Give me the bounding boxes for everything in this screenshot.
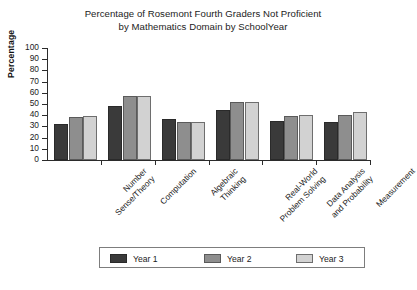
legend-entry[interactable]: Year 1 <box>110 252 158 265</box>
y-axis-line <box>47 48 48 160</box>
bar <box>216 110 230 160</box>
y-axis-tick-label: 80 <box>30 64 39 75</box>
y-axis-tick-label: 20 <box>30 132 39 143</box>
x-axis-category-label: Measurement <box>374 166 417 209</box>
y-axis-tick: 0 <box>42 160 47 161</box>
bar <box>123 96 137 160</box>
bar <box>54 124 68 160</box>
bar <box>245 102 259 160</box>
y-axis-title: Percentage <box>6 30 16 78</box>
y-axis-tick-label: 70 <box>30 76 39 87</box>
category-label-line: Measurement <box>374 166 417 209</box>
y-axis-tick: 10 <box>42 149 47 150</box>
y-axis-tick: 30 <box>42 126 47 127</box>
x-axis-category-label: Data Analysisand Probability <box>321 166 375 220</box>
legend-label: Year 3 <box>319 254 344 264</box>
bar <box>177 122 191 160</box>
y-axis-tick-label: 40 <box>30 109 39 120</box>
bar <box>108 106 122 160</box>
bar-group <box>162 48 205 160</box>
x-axis-category-label: Real-WorldProblem Solving <box>269 166 327 224</box>
bar <box>284 116 298 160</box>
y-axis-tick: 50 <box>42 104 47 105</box>
category-label-line: Computation <box>158 166 198 206</box>
x-axis-tick <box>155 160 156 165</box>
bar-group <box>54 48 97 160</box>
bar <box>162 119 176 160</box>
legend-entry[interactable]: Year 3 <box>296 252 344 265</box>
bar-group <box>216 48 259 160</box>
chart-title-line-1: Percentage of Rosemont Fourth Graders No… <box>38 8 368 21</box>
x-axis-tick <box>316 160 317 165</box>
y-axis-tick-label: 50 <box>30 98 39 109</box>
y-axis-tick: 100 <box>42 48 47 49</box>
x-axis-tick <box>370 160 371 165</box>
x-axis-category-label: Computation <box>158 166 199 207</box>
bar <box>69 117 83 160</box>
chart-title-line-2: by Mathematics Domain by SchoolYear <box>38 21 368 34</box>
bar <box>191 122 205 160</box>
legend-label: Year 1 <box>133 254 158 264</box>
bar <box>83 116 97 160</box>
y-axis-tick-label: 90 <box>30 53 39 64</box>
legend-swatch <box>204 254 221 263</box>
x-axis-category-label: AlgebraicThinking <box>208 166 247 205</box>
x-axis-tick <box>101 160 102 165</box>
y-axis-tick: 20 <box>42 138 47 139</box>
legend-entry[interactable]: Year 2 <box>204 252 252 265</box>
bar <box>137 96 151 160</box>
y-axis-tick: 60 <box>42 93 47 94</box>
bar <box>324 122 338 160</box>
plot-area: 1009080706050403020100 <box>47 48 370 160</box>
bar-group <box>108 48 151 160</box>
y-axis-tick: 70 <box>42 82 47 83</box>
y-axis-tick-label: 0 <box>34 154 39 165</box>
x-axis-tick <box>262 160 263 165</box>
x-axis-category-label: NumberSense/Theory <box>105 166 156 217</box>
chart-title: Percentage of Rosemont Fourth Graders No… <box>38 8 368 33</box>
bar-group <box>324 48 367 160</box>
y-axis-tick: 90 <box>42 59 47 60</box>
chart-legend: Year 1Year 2Year 3 <box>99 247 365 268</box>
bar <box>230 102 244 160</box>
y-axis-tick-label: 30 <box>30 120 39 131</box>
y-axis-tick: 40 <box>42 115 47 116</box>
bar-group <box>270 48 313 160</box>
y-axis-tick-label: 100 <box>25 42 39 53</box>
bar <box>353 112 367 160</box>
bar <box>299 115 313 160</box>
y-axis-tick-label: 10 <box>30 143 39 154</box>
y-axis-tick-label: 60 <box>30 87 39 98</box>
x-axis-tick <box>209 160 210 165</box>
legend-label: Year 2 <box>227 254 252 264</box>
legend-swatch <box>296 254 313 263</box>
bar <box>270 121 284 160</box>
bar <box>338 115 352 160</box>
legend-swatch <box>110 254 127 263</box>
y-axis-tick: 80 <box>42 70 47 71</box>
